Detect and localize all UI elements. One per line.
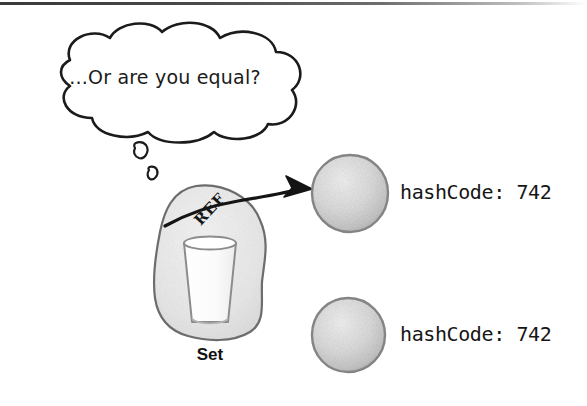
object-bottom-hashcode-label: hashCode: 742: [400, 322, 551, 346]
thought-bubble-text: ...Or are you equal?: [50, 66, 280, 88]
object-circle-bottom: [312, 298, 385, 372]
object-circle-top: [312, 155, 388, 232]
object-top-hashcode-label: hashCode: 742: [400, 180, 551, 204]
set-label: Set: [160, 345, 260, 365]
illustration-canvas: ...Or are you equal? REF Set hashCode: 7…: [0, 0, 587, 406]
thought-trail-bubbles: [134, 142, 157, 179]
cup-object: [184, 237, 236, 324]
